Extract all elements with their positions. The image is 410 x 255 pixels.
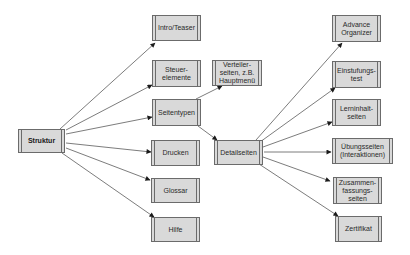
- node-label: Seitentypen: [154, 109, 199, 117]
- node-drucken: Drucken: [151, 140, 200, 166]
- node-zusammenfassungsseiten: Zusammen- fassungs- seiten: [333, 177, 382, 204]
- node-label: Steuer- elemente: [158, 66, 195, 82]
- edge-arrow-intro: [60, 43, 155, 129]
- node-label: Einstufungs- test: [333, 67, 380, 83]
- node-intro-teaser: Intro/Teaser: [152, 15, 201, 41]
- node-label: Verteiler- seiten, z.B. Hauptmenü: [215, 61, 259, 85]
- node-advance-organizer: Advance Organizer: [332, 15, 381, 42]
- edge-arrow-zusammen: [263, 157, 330, 181]
- node-label: Zertifikat: [341, 225, 376, 233]
- node-lerninhaltseiten: Lerninhalt- seiten: [332, 99, 381, 126]
- node-seitentypen: Seitentypen: [152, 99, 201, 126]
- edge-arrow-verteiler: [196, 86, 222, 99]
- edge-arrow-drucken: [66, 143, 151, 152]
- node-label: Drucken: [158, 149, 192, 157]
- node-label: Intro/Teaser: [154, 24, 199, 32]
- node-uebungsseiten: Übungsseiten (Interaktionen): [332, 138, 393, 164]
- node-verteilerseiten: Verteiler- seiten, z.B. Hauptmenü: [212, 60, 262, 86]
- edge-arrow-steuer: [66, 85, 152, 130]
- edge-arrow-glossar: [66, 148, 150, 180]
- edge-arrow-seitentypen: [66, 117, 152, 134]
- node-label: Lerninhalt- seiten: [336, 105, 377, 121]
- structure-diagram: Struktur Intro/Teaser Steuer- elemente S…: [0, 0, 410, 255]
- node-glossar: Glossar: [151, 178, 200, 203]
- node-struktur: Struktur: [18, 129, 65, 153]
- edge-arrow-lerninhalt: [263, 122, 332, 147]
- edge-arrow-zertifikat: [259, 164, 338, 216]
- node-label: Übungsseiten (Interaktionen): [336, 143, 389, 159]
- node-steuerelemente: Steuer- elemente: [152, 60, 201, 87]
- edge-arrow-einstufung: [260, 88, 335, 142]
- edge-arrow-detailseiten: [198, 126, 217, 140]
- node-einstufungstest: Einstufungs- test: [332, 61, 381, 88]
- node-zertifikat: Zertifikat: [335, 216, 382, 242]
- edge-arrow-advance: [256, 43, 342, 140]
- node-detailseiten: Detailseiten: [214, 140, 263, 165]
- node-hilfe: Hilfe: [151, 217, 200, 242]
- node-label: Hilfe: [164, 226, 186, 234]
- node-label: Struktur: [24, 137, 59, 145]
- edge-arrow-hilfe: [62, 153, 154, 217]
- node-label: Glossar: [159, 187, 191, 195]
- node-label: Detailseiten: [216, 149, 261, 157]
- node-label: Zusammen- fassungs- seiten: [335, 179, 380, 203]
- node-label: Advance Organizer: [337, 21, 376, 37]
